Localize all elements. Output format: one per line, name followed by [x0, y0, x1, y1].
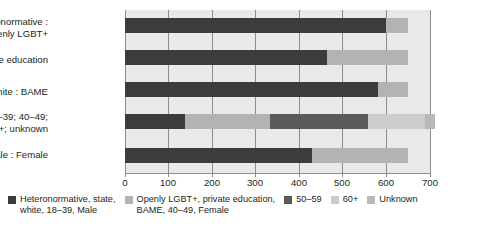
category-label-line1: Age : 18–39; 40–49;	[0, 111, 48, 123]
bar-segment	[270, 114, 368, 129]
bar-segment	[125, 50, 327, 65]
bar-segment	[312, 148, 408, 163]
bar-age	[125, 114, 435, 129]
chart-legend: Heteronormative, state, white, 18–39, Ma…	[8, 194, 480, 228]
stacked-bar-chart: Heteronormative : Openly LGBT+ State : P…	[0, 0, 480, 231]
xtick-label-0: 0	[122, 177, 127, 188]
xtick-label-600: 600	[378, 177, 394, 188]
legend-swatch-icon	[125, 196, 133, 204]
category-label-state-private: State : Private education	[0, 54, 48, 66]
bar-segment	[386, 18, 408, 33]
bar-heteronormative	[125, 18, 408, 33]
legend-label: 50–59	[296, 194, 322, 205]
xtick-label-300: 300	[247, 177, 263, 188]
category-label-male-female: Male : Female	[0, 149, 48, 161]
bar-segment	[125, 148, 312, 163]
bar-segment	[125, 18, 386, 33]
category-label-age: Age : 18–39; 40–49; 50–59; 60+; unknown	[0, 111, 48, 134]
bar-segment	[368, 114, 425, 129]
legend-item[interactable]: Unknown	[367, 194, 417, 205]
bar-male-female	[125, 148, 408, 163]
bar-segment	[425, 114, 435, 129]
category-label-line1: Male : Female	[0, 149, 48, 161]
legend-item[interactable]: 60+	[331, 194, 359, 205]
bar-segment	[125, 82, 378, 97]
category-label-line1: State : Private education	[0, 54, 48, 66]
legend-swatch-icon	[331, 196, 339, 204]
legend-label: Openly LGBT+, private education, BAME, 4…	[137, 194, 276, 216]
category-label-heteronormative: Heteronormative : Openly LGBT+	[0, 16, 48, 39]
legend-item[interactable]: Heteronormative, state, white, 18–39, Ma…	[8, 194, 116, 216]
legend-label: Heteronormative, state, white, 18–39, Ma…	[20, 194, 116, 216]
xtick-label-700: 700	[422, 177, 438, 188]
legend-swatch-icon	[284, 196, 292, 204]
bar-segment	[327, 50, 408, 65]
bar-segment	[185, 114, 270, 129]
category-label-line1: Heteronormative :	[0, 16, 48, 28]
xtick-label-100: 100	[160, 177, 176, 188]
bar-state-private	[125, 50, 408, 65]
bar-segment	[125, 114, 185, 129]
legend-label: Unknown	[379, 194, 417, 205]
bar-white-bame	[125, 82, 408, 97]
legend-label: 60+	[343, 194, 359, 205]
category-label-white-bame: White : BAME	[0, 86, 48, 98]
xtick-label-200: 200	[204, 177, 220, 188]
category-label-line2: 50–59; 60+; unknown	[0, 123, 48, 135]
category-label-line1: White : BAME	[0, 86, 48, 98]
legend-swatch-icon	[8, 196, 16, 204]
xtick-label-400: 400	[291, 177, 307, 188]
xtick-label-500: 500	[334, 177, 350, 188]
legend-item[interactable]: 50–59	[284, 194, 322, 205]
legend-item[interactable]: Openly LGBT+, private education, BAME, 4…	[125, 194, 276, 216]
bar-segment	[378, 82, 409, 97]
legend-swatch-icon	[367, 196, 375, 204]
category-label-line2: Openly LGBT+	[0, 28, 48, 40]
